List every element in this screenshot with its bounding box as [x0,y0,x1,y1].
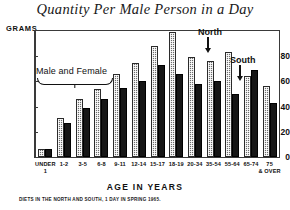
x-tick-label: 35-54 [206,161,221,167]
bar-south [83,108,90,157]
bar-north [244,76,251,157]
annotation-south: South [230,55,256,65]
x-tick-label: 3-5 [78,161,87,167]
bar-north [225,52,232,157]
bar-north [151,46,158,157]
bar-group [169,31,183,157]
bar-south [176,74,183,157]
x-tick-label: 12-14 [131,161,146,167]
x-axis-tick-labels: UNDER11-23-56-89-1112-1415-1718-1920-343… [36,161,279,181]
x-tick-label: 55-64 [225,161,240,167]
bar-south [251,70,258,157]
x-tick-label: 15-17 [150,161,165,167]
y-axis-label: GRAMS [6,24,37,33]
bar-south [120,88,127,157]
bar-north [169,32,176,157]
x-tick-label: UNDER1 [35,161,56,174]
bar-group [225,31,239,157]
bar-south [158,65,165,157]
bar-south [270,103,277,157]
bar-group [57,31,71,157]
male-and-female-bracket [37,78,113,85]
bar-south [139,81,146,157]
bar-group [132,31,146,157]
bar-group [263,31,277,157]
bar-north [132,63,139,158]
chart-footnote: DIETS IN THE NORTH AND SOUTH, 1 DAY IN S… [19,197,161,202]
bar-south [214,81,221,157]
x-tick-label: 75& OVER [258,161,280,174]
bar-north [94,89,101,157]
bar-group [188,31,202,157]
x-axis-title: AGE IN YEARS [0,182,290,192]
chart-figure: Quantity Per Male Person in a Day GRAMS … [0,0,290,210]
bar-north [263,86,270,157]
x-tick-label: 9-11 [114,161,126,167]
x-tick-label: 1-2 [60,161,69,167]
north-arrow-icon [207,37,209,49]
bar-group [76,31,90,157]
bar-south [101,99,108,157]
x-tick-label: 65-74 [243,161,258,167]
bar-north [57,118,64,157]
bar-north [76,99,83,157]
x-tick-label: 20-34 [187,161,202,167]
bars-area [36,31,279,157]
chart-title: Quantity Per Male Person in a Day [0,1,290,18]
bar-north [207,61,214,157]
bar-group [151,31,165,157]
annotation-male-and-female: Male and Female [36,66,107,76]
annotation-north: North [198,27,222,37]
x-tick-label: 6-8 [97,161,106,167]
bar-group [94,31,108,157]
bar-group [244,31,258,157]
bar-group [38,31,52,157]
bar-south [45,149,52,157]
south-arrow-icon [239,65,241,77]
bar-group [113,31,127,157]
x-tick-label: 18-19 [169,161,184,167]
bar-north [188,57,195,157]
bar-south [232,94,239,157]
bar-south [195,84,202,157]
bar-north [38,149,45,157]
bar-north [113,74,120,157]
bar-south [64,123,71,157]
